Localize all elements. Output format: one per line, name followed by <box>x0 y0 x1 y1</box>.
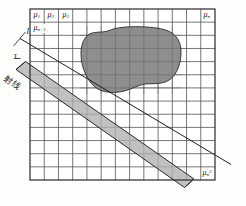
label-projection-line: l <box>26 27 30 36</box>
l-label-leader <box>14 32 26 46</box>
label-mu-n-squared: μn2 <box>202 169 212 178</box>
label-tau: τ <box>14 51 17 60</box>
label-mu-3: μ3 <box>62 11 70 20</box>
label-mu-1: μ1 <box>33 11 41 20</box>
label-mu-n: μn <box>203 11 211 20</box>
label-mu-n-plus-1: μn+1 <box>33 24 46 33</box>
label-mu-2: μ2 <box>47 11 55 20</box>
figure-ray-through-grid: μ1 μ2 μ3 μn μn+1 μn2 l τ 射线 <box>0 0 246 206</box>
